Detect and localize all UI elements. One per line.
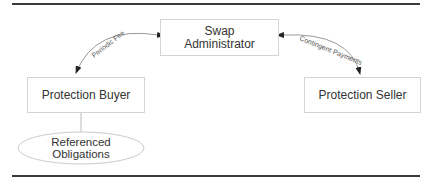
protection-buyer-node: Protection Buyer xyxy=(27,77,145,113)
obligations-label-line2: Obligations xyxy=(51,148,110,160)
contingent-payments-label: Contingent Payments xyxy=(298,34,364,67)
obligations-label-line1: Referenced xyxy=(51,136,110,148)
administrator-label-line2: Administrator xyxy=(184,38,255,51)
protection-seller-node: Protection Seller xyxy=(304,77,421,113)
swap-administrator-node: Swap Administrator xyxy=(160,19,279,56)
administrator-label-line1: Swap xyxy=(184,25,255,38)
buyer-label: Protection Buyer xyxy=(42,89,131,102)
periodic-fee-label: Periodic Fee xyxy=(90,29,125,59)
referenced-obligations-node: Referenced Obligations xyxy=(18,132,144,164)
seller-label: Protection Seller xyxy=(318,89,406,102)
